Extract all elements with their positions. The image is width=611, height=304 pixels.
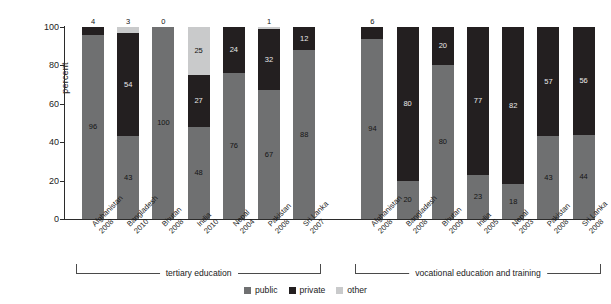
bar-segment-private: 6 [361, 27, 383, 39]
bar-segment-private: 57 [537, 27, 559, 136]
bar-segment-public: 94 [361, 39, 383, 219]
bar-value-label: 20 [439, 42, 447, 50]
bar-value-label: 80 [439, 138, 447, 146]
bar-value-label: 77 [474, 97, 482, 105]
bar-value-label: 0 [161, 18, 165, 26]
bar-value-label: 24 [230, 46, 238, 54]
chart-legend: public private other [0, 285, 611, 295]
bar-value-label: 82 [509, 102, 517, 110]
y-tick-mark [60, 27, 64, 28]
bar-afghanistan-2008[interactable]: 946 [361, 27, 383, 219]
bar-segment-other: 25 [188, 27, 210, 75]
group-bracket: tertiary education [76, 264, 321, 280]
bar-segment-private: 56 [573, 27, 595, 135]
bar-value-label: 27 [194, 97, 202, 105]
bar-value-label: 32 [265, 56, 273, 64]
y-tick-label: 20 [25, 176, 59, 186]
bar-value-label: 4 [91, 18, 95, 26]
y-tick-label: 0 [25, 214, 59, 224]
group-bracket-label: tertiary education [160, 268, 238, 278]
y-axis-title: percent [60, 38, 70, 118]
bar-segment-private: 77 [467, 27, 489, 175]
legend-swatch-public-icon [244, 287, 251, 294]
legend-swatch-other-icon [336, 287, 343, 294]
bar-value-label: 12 [300, 35, 308, 43]
bar-afghanistan-2008[interactable]: 964 [82, 27, 104, 219]
bar-segment-private: 54 [117, 33, 139, 137]
legend-item-private[interactable]: private [289, 285, 326, 295]
bar-value-label: 100 [157, 119, 170, 127]
legend-item-other[interactable]: other [336, 285, 367, 295]
legend-label-public: public [255, 285, 277, 295]
bar-segment-private: 82 [502, 27, 524, 184]
bar-value-label: 57 [544, 78, 552, 86]
group-bracket: vocational education and training [355, 264, 600, 280]
bar-value-label: 25 [194, 47, 202, 55]
bar-segment-other: 1 [258, 27, 280, 29]
bar-value-label: 96 [89, 123, 97, 131]
bar-value-label: 1 [267, 18, 271, 26]
bar-value-label: 94 [368, 125, 376, 133]
bar-segment-private: 80 [397, 27, 419, 181]
bar-value-label: 76 [230, 142, 238, 150]
y-axis-line [64, 26, 65, 220]
bar-value-label: 88 [300, 131, 308, 139]
y-tick-label: 100 [25, 22, 59, 32]
bar-segment-private: 32 [258, 29, 280, 90]
y-tick-mark [60, 181, 64, 182]
y-tick-label: 60 [25, 99, 59, 109]
bar-value-label: 80 [403, 100, 411, 108]
bar-segment-private: 27 [188, 75, 210, 127]
bar-value-label: 6 [370, 18, 374, 26]
legend-swatch-private-icon [289, 287, 296, 294]
legend-label-other: other [347, 285, 367, 295]
legend-label-private: private [300, 285, 326, 295]
y-tick-mark [60, 65, 64, 66]
bar-value-label: 48 [194, 169, 202, 177]
bar-segment-other: 3 [117, 27, 139, 33]
bar-value-label: 67 [265, 151, 273, 159]
group-bracket-label: vocational education and training [409, 268, 547, 278]
bar-segment-public: 96 [82, 35, 104, 219]
y-tick-mark [60, 219, 64, 220]
legend-item-public[interactable]: public [244, 285, 277, 295]
bar-segment-private: 12 [293, 27, 315, 50]
y-tick-mark [60, 142, 64, 143]
chart-root: percent 020406080100 9644354310004827257… [0, 0, 611, 304]
bar-segment-private: 20 [432, 27, 454, 65]
bar-value-label: 54 [124, 81, 132, 89]
bar-value-label: 3 [126, 18, 130, 26]
bar-segment-private: 24 [223, 27, 245, 73]
y-tick-label: 40 [25, 137, 59, 147]
bar-value-label: 56 [579, 77, 587, 85]
bar-segment-private: 4 [82, 27, 104, 35]
y-tick-mark [60, 104, 64, 105]
y-tick-label: 80 [25, 60, 59, 70]
